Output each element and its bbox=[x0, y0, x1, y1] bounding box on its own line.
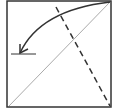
origami-diagram bbox=[0, 0, 113, 109]
fold-diagram-svg bbox=[0, 0, 113, 109]
